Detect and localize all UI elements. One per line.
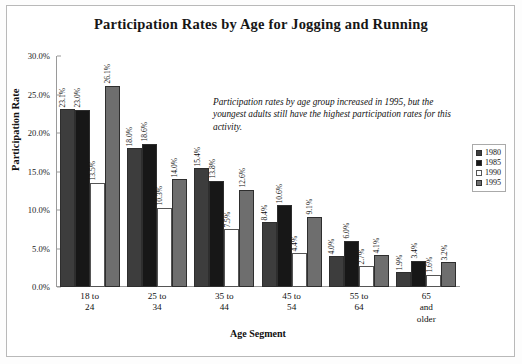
bar-1985[interactable]: 10.6% — [277, 205, 292, 287]
y-axis-tick-label: 0.0% — [32, 282, 57, 292]
bar-1980[interactable]: 1.9% — [396, 272, 411, 287]
x-axis-label: 25 to34 — [123, 291, 190, 325]
legend-swatch-icon — [476, 150, 482, 156]
bar-1995[interactable]: 14.0% — [172, 179, 187, 287]
x-axis-label-line: 55 to — [325, 291, 392, 302]
bar-group: 4.0%6.0%2.7%4.1% — [325, 56, 392, 287]
bar-group: 8.4%10.6%4.4%9.1% — [258, 56, 325, 287]
bar-1995[interactable]: 4.1% — [374, 255, 389, 287]
bar-value-label: 4.1% — [374, 238, 382, 254]
legend-swatch-icon — [476, 160, 482, 166]
x-axis-label-line: 24 — [56, 302, 123, 313]
bar-1980[interactable]: 23.1% — [60, 109, 75, 287]
x-axis-tick-labels: 18 to2425 to3435 to4445 to5455 to6465and… — [56, 291, 460, 325]
legend-label: 1995 — [485, 178, 501, 188]
y-axis-title: Participation Rate — [10, 88, 21, 171]
x-axis-label-line: older — [393, 314, 460, 325]
bar-value-label: 14.0% — [172, 158, 180, 178]
bar-value-label: 12.6% — [239, 168, 247, 188]
bar-1980[interactable]: 18.0% — [127, 148, 142, 287]
bar-value-label: 4.4% — [292, 235, 300, 251]
x-axis-label: 55 to64 — [325, 291, 392, 325]
bar-value-label: 15.4% — [194, 147, 202, 167]
bar-group: 23.1%23.0%13.5%26.1% — [56, 56, 123, 287]
legend-label: 1980 — [485, 148, 501, 158]
bar-1980[interactable]: 4.0% — [329, 256, 344, 287]
bar-1980[interactable]: 8.4% — [262, 222, 277, 287]
x-axis-label-line: 18 to — [56, 291, 123, 302]
bar-value-label: 1.6% — [426, 257, 434, 273]
bar-value-label: 26.1% — [105, 64, 113, 84]
x-axis-label-line: and — [393, 302, 460, 313]
x-axis-label-line: 54 — [258, 302, 325, 313]
bar-group: 1.9%3.4%1.6%3.2% — [393, 56, 460, 287]
legend-item-1995[interactable]: 1995 — [476, 178, 501, 188]
bar-1995[interactable]: 3.2% — [441, 262, 456, 287]
x-axis-label: 18 to24 — [56, 291, 123, 325]
bar-1995[interactable]: 9.1% — [307, 217, 322, 287]
bar-1985[interactable]: 18.6% — [142, 144, 157, 287]
y-axis-tick-label: 25.0% — [28, 90, 57, 100]
bar-value-label: 13.8% — [209, 159, 217, 179]
bar-groups: 23.1%23.0%13.5%26.1%18.0%18.6%10.3%14.0%… — [56, 56, 460, 287]
y-axis-tick-label: 20.0% — [28, 128, 57, 138]
bar-value-label: 6.0% — [344, 223, 352, 239]
y-axis-tick-label: 10.0% — [28, 205, 57, 215]
bar-1990[interactable]: 13.5% — [90, 183, 105, 287]
x-axis-label: 45 to54 — [258, 291, 325, 325]
bar-1995[interactable]: 12.6% — [239, 190, 254, 287]
bar-1990[interactable]: 4.4% — [292, 253, 307, 287]
bar-value-label: 8.4% — [262, 205, 270, 221]
legend-swatch-icon — [476, 170, 482, 176]
bar-group: 18.0%18.6%10.3%14.0% — [123, 56, 190, 287]
legend-swatch-icon — [476, 180, 482, 186]
x-axis-title: Age Segment — [56, 328, 460, 339]
bar-set: 8.4%10.6%4.4%9.1% — [262, 56, 322, 287]
bar-value-label: 23.1% — [60, 88, 68, 108]
legend-item-1985[interactable]: 1985 — [476, 158, 501, 168]
x-axis-label-line: 35 to — [191, 291, 258, 302]
bar-value-label: 1.9% — [396, 255, 404, 271]
bar-value-label: 2.7% — [359, 248, 367, 264]
bar-set: 18.0%18.6%10.3%14.0% — [127, 56, 187, 287]
bar-1990[interactable]: 2.7% — [359, 266, 374, 287]
legend-item-1990[interactable]: 1990 — [476, 168, 501, 178]
bar-set: 1.9%3.4%1.6%3.2% — [396, 56, 456, 287]
bar-1980[interactable]: 15.4% — [194, 168, 209, 287]
bar-1990[interactable]: 7.5% — [224, 229, 239, 287]
bar-value-label: 3.4% — [411, 243, 419, 259]
x-axis-label-line: 25 to — [123, 291, 190, 302]
bar-1995[interactable]: 26.1% — [105, 86, 120, 287]
bar-value-label: 10.3% — [157, 186, 165, 206]
bar-value-label: 18.6% — [142, 122, 150, 142]
bar-1985[interactable]: 23.0% — [75, 110, 90, 287]
chart-title: Participation Rates by Age for Jogging a… — [0, 16, 522, 33]
x-axis-label-line: 64 — [325, 302, 392, 313]
y-axis-tick-label: 5.0% — [32, 244, 57, 254]
bar-value-label: 4.0% — [329, 238, 337, 254]
x-axis-label: 35 to44 — [191, 291, 258, 325]
bar-value-label: 13.5% — [90, 161, 98, 181]
x-axis-label: 65andolder — [393, 291, 460, 325]
bar-1990[interactable]: 10.3% — [157, 208, 172, 287]
bar-value-label: 23.0% — [75, 88, 83, 108]
bar-value-label: 3.2% — [441, 245, 449, 261]
bar-set: 4.0%6.0%2.7%4.1% — [329, 56, 389, 287]
bar-value-label: 10.6% — [277, 184, 285, 204]
bar-value-label: 7.5% — [224, 211, 232, 227]
bar-group: 15.4%13.8%7.5%12.6% — [191, 56, 258, 287]
bar-1985[interactable]: 3.4% — [411, 261, 426, 287]
legend-item-1980[interactable]: 1980 — [476, 148, 501, 158]
chart-annotation: Participation rates by age group increas… — [213, 96, 457, 133]
x-axis-label-line: 65 — [393, 291, 460, 302]
bar-value-label: 18.0% — [127, 127, 135, 147]
bar-1990[interactable]: 1.6% — [426, 275, 441, 287]
bar-value-label: 9.1% — [307, 199, 315, 215]
x-axis-label-line: 44 — [191, 302, 258, 313]
x-axis-label-line: 34 — [123, 302, 190, 313]
y-axis-tick-label: 30.0% — [28, 51, 57, 61]
bar-1985[interactable]: 13.8% — [209, 181, 224, 287]
bar-set: 23.1%23.0%13.5%26.1% — [60, 56, 120, 287]
chart-page: Participation Rates by Age for Jogging a… — [0, 0, 522, 364]
legend-label: 1990 — [485, 168, 501, 178]
